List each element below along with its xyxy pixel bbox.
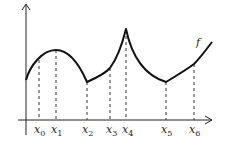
label-x6: x6 [189, 123, 200, 138]
function-curve [26, 29, 212, 82]
dashed-guides [39, 30, 194, 120]
label-x2: x2 [82, 123, 93, 138]
label-x4: x4 [122, 123, 133, 138]
label-x0: x0 [34, 123, 45, 138]
function-label: f [195, 36, 202, 49]
label-x3: x3 [106, 123, 117, 138]
label-x1: x1 [51, 123, 62, 138]
function-graph: f x0 x1 x2 x3 x4 x5 x6 [0, 0, 225, 142]
label-x5: x5 [161, 123, 172, 138]
